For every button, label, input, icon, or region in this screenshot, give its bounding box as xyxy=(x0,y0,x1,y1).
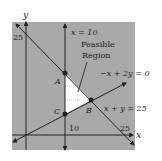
x-tick-25: 25 xyxy=(120,124,130,133)
region-label-line1: Feasible xyxy=(81,40,115,49)
point-a xyxy=(63,71,68,76)
point-b-label: B xyxy=(85,106,92,115)
y-axis-label: y xyxy=(22,10,29,20)
label-x-plus-y-25: x + y = 25 xyxy=(104,104,147,113)
point-c xyxy=(63,112,68,117)
label-neg-x-plus-2y: −x + 2y = 0 xyxy=(100,69,150,78)
label-x-equals-10: x = 10 xyxy=(71,28,97,37)
point-a-label: A xyxy=(54,77,61,86)
x-tick-10: 10 xyxy=(69,124,79,133)
point-c-label: C xyxy=(54,107,60,116)
region-label-line2: Region xyxy=(82,51,110,60)
y-tick-25: 25 xyxy=(13,33,23,42)
x-axis-label: x xyxy=(136,130,141,140)
point-b xyxy=(89,98,94,103)
feasible-region-diagram: y x 25 25 10 x = 10 −x + 2y = 0 x + y = … xyxy=(0,0,162,161)
